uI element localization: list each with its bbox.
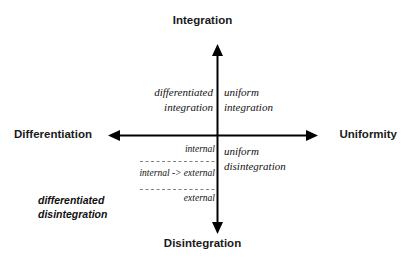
quadrant-label-line1: differentiated [154, 85, 213, 100]
axis-label-integration: Integration [0, 14, 405, 27]
quadrant-label-differentiated-disintegration: differentiated disintegration [38, 193, 107, 221]
quadrant-label-uniform-integration: uniform integration [224, 85, 273, 115]
axis-arrow-left [108, 130, 120, 141]
quadrant-label-differentiated-integration: differentiated integration [154, 85, 213, 115]
quadrant-label-line2: disintegration [224, 159, 286, 174]
quadrant-label-line2: integration [224, 100, 273, 115]
quadrant-label-line1: differentiated [38, 193, 107, 207]
band-label-internal: internal [131, 143, 215, 155]
axis-label-differentiation: Differentiation [14, 128, 92, 141]
quadrant-label-line1: uniform [224, 85, 273, 100]
quadrant-label-uniform-disintegration: uniform disintegration [224, 144, 286, 174]
axis-arrow-up [212, 44, 223, 56]
band-label-external: external [131, 192, 215, 204]
axis-label-uniformity: Uniformity [340, 128, 398, 141]
quadrant-label-line2: integration [154, 100, 213, 115]
band-label-internal-to-external: internal -> external [131, 167, 215, 179]
quadrant-label-line1: uniform [224, 144, 286, 159]
axis-arrow-down [212, 222, 223, 234]
axis-label-disintegration: Disintegration [0, 237, 405, 250]
quadrant-diagram: Integration Disintegration Differentiati… [0, 0, 405, 261]
quadrant-label-line2: disintegration [38, 207, 107, 221]
axis-arrow-right [306, 130, 318, 141]
